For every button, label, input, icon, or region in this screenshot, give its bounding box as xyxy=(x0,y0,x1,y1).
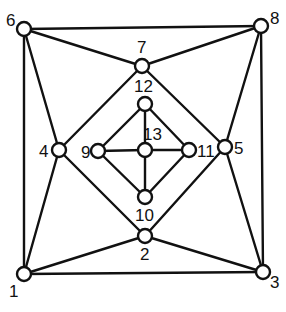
graph-nodes xyxy=(17,19,270,281)
node-2 xyxy=(138,229,152,243)
node-7 xyxy=(135,59,149,73)
edge-1-2 xyxy=(24,236,145,274)
node-label-3: 3 xyxy=(270,273,279,292)
node-9 xyxy=(91,144,105,158)
node-8 xyxy=(254,19,268,33)
edge-4-2 xyxy=(59,150,145,236)
node-5 xyxy=(218,140,232,154)
edge-6-7 xyxy=(24,29,142,66)
node-label-4: 4 xyxy=(39,142,48,161)
edge-9-10 xyxy=(98,151,145,197)
edge-3-1 xyxy=(24,272,263,274)
node-label-5: 5 xyxy=(234,139,243,158)
node-3 xyxy=(256,265,270,279)
node-10 xyxy=(138,190,152,204)
edge-6-4 xyxy=(24,29,59,150)
edge-8-7 xyxy=(142,26,261,66)
graph-diagram: 12345678910111213 xyxy=(0,0,286,312)
edge-12-9 xyxy=(98,104,145,151)
node-label-13: 13 xyxy=(143,125,162,144)
node-label-6: 6 xyxy=(6,11,15,30)
node-1 xyxy=(17,267,31,281)
node-11 xyxy=(182,143,196,157)
edge-7-4 xyxy=(59,66,142,150)
edge-11-10 xyxy=(145,150,189,197)
node-12 xyxy=(138,97,152,111)
node-label-2: 2 xyxy=(140,245,149,264)
node-label-1: 1 xyxy=(9,282,18,301)
edge-8-5 xyxy=(225,26,261,147)
edge-6-8 xyxy=(24,26,261,29)
edge-8-3 xyxy=(261,26,263,272)
node-label-7: 7 xyxy=(137,38,146,57)
node-label-10: 10 xyxy=(135,206,154,225)
edge-3-5 xyxy=(225,147,263,272)
node-label-9: 9 xyxy=(81,143,90,162)
edge-1-4 xyxy=(24,150,59,274)
node-label-12: 12 xyxy=(134,77,153,96)
edge-3-2 xyxy=(145,236,263,272)
node-6 xyxy=(17,22,31,36)
node-label-11: 11 xyxy=(197,142,215,161)
node-4 xyxy=(52,143,66,157)
node-label-8: 8 xyxy=(270,9,279,28)
node-13 xyxy=(138,143,152,157)
